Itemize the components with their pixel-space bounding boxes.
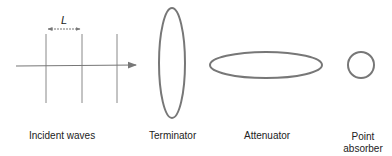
point-absorber-label: Point absorber <box>343 131 383 155</box>
attenuator-shape <box>210 52 322 78</box>
wave-crests <box>46 34 117 103</box>
point-absorber-shape <box>348 52 374 78</box>
attenuator-label: Attenuator <box>244 130 290 142</box>
wave-direction-arrow-icon <box>16 65 136 66</box>
wavelength-label: L <box>61 14 67 26</box>
incident-waves-label: Incident waves <box>29 130 95 142</box>
point-absorber-label-line2: absorber <box>343 143 383 155</box>
point-absorber-label-line1: Point <box>343 131 383 143</box>
terminator-shape <box>159 8 185 118</box>
terminator-label: Terminator <box>149 130 196 142</box>
